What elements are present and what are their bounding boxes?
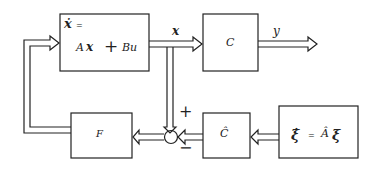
plant-a-term: A xyxy=(76,42,84,53)
plant-x-term: x xyxy=(86,41,93,53)
feedback-arrow xyxy=(24,36,71,133)
exosystem-lhs: ξ̇ xyxy=(291,128,299,142)
plant-plus-sign: + xyxy=(104,38,118,55)
exosystem-equals-sign: = xyxy=(308,132,315,140)
feedback-gain-label: F xyxy=(96,129,103,139)
output-matrix-label: C xyxy=(226,37,234,48)
output-signal-label: y xyxy=(273,25,280,37)
state-arrow xyxy=(149,37,202,51)
plant-state-derivative: ẋ xyxy=(64,17,72,30)
state-tap-arrow xyxy=(164,47,176,133)
state-signal-label: x xyxy=(172,25,179,37)
exosystem-to-chat-arrow xyxy=(251,130,279,144)
estimator-output-label: Ĉ xyxy=(220,128,228,139)
plant-bu-term: Bu xyxy=(122,42,137,53)
junction-to-f-arrow xyxy=(133,130,164,144)
exosystem-a-hat: Â xyxy=(321,128,329,139)
plus-sign: + xyxy=(179,104,192,120)
exosystem-xi: ξ xyxy=(332,128,340,142)
plant-equals-sign: = xyxy=(76,22,83,30)
minus-sign: − xyxy=(179,140,192,156)
